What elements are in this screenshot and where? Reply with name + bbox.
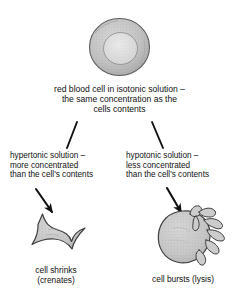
isotonic-caption: red blood cell in isotonic solution – th… [8, 84, 231, 114]
hypertonic-caption: hypertonic solution – more concentrated … [4, 151, 116, 180]
hypertonic-to-crenated-arrow [36, 189, 52, 212]
isotonic-to-hypertonic-line [67, 122, 77, 148]
isotonic-cell-illustration [90, 19, 150, 76]
crenated-cell-illustration [32, 214, 85, 249]
hypotonic-to-lysed-arrow [167, 188, 181, 212]
osmosis-diagram: red blood cell in isotonic solution – th… [0, 0, 239, 299]
isotonic-to-hypotonic-line [152, 122, 163, 148]
hypotonic-caption: hypotonic solution – less concentrated t… [122, 151, 237, 180]
diagram-graphics-layer [0, 0, 239, 299]
lysed-result-caption: cell bursts (lysis) [130, 275, 236, 285]
crenated-result-caption: cell shrinks (crenates) [4, 266, 108, 286]
lysed-cell-illustration [158, 206, 224, 265]
